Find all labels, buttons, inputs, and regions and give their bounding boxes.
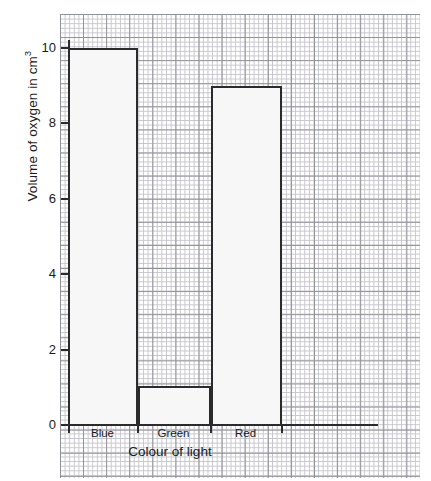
bar-chart-figure: 10 8 6 4 2 0 Blue Green Red Volume of ox… xyxy=(0,0,431,481)
y-tick-label-0: 0 xyxy=(22,418,56,431)
y-tick-4 xyxy=(61,273,69,275)
cropped-text-remnant xyxy=(0,0,431,5)
y-tick-label-4: 4 xyxy=(22,267,56,280)
category-label-red: Red xyxy=(210,427,281,439)
x-axis-title: Colour of light xyxy=(60,444,280,459)
y-axis-line xyxy=(68,40,70,426)
bar-red xyxy=(211,86,282,426)
y-axis-title-text: Volume of oxygen in cm xyxy=(25,56,40,202)
category-label-green: Green xyxy=(137,427,210,439)
bar-blue xyxy=(68,48,138,426)
x-axis-line xyxy=(68,424,378,426)
y-tick-6 xyxy=(61,198,69,200)
paper-right-margin xyxy=(420,0,431,481)
y-axis-title-superscript: 3 xyxy=(23,51,33,56)
plot-area xyxy=(60,14,420,478)
bar-green xyxy=(138,386,211,426)
x-tick-right-red xyxy=(281,424,283,433)
y-tick-8 xyxy=(61,122,69,124)
y-tick-10 xyxy=(61,47,69,49)
y-tick-2 xyxy=(61,349,69,351)
y-tick-label-2: 2 xyxy=(22,343,56,356)
y-axis-title: Volume of oxygen in cm3 xyxy=(23,19,40,234)
category-label-blue: Blue xyxy=(68,427,137,439)
